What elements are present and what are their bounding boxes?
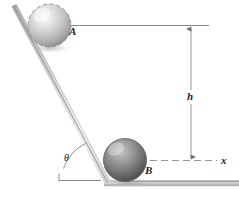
- diagram-canvas: [0, 0, 239, 201]
- sphere-a: [28, 4, 71, 47]
- label-sphere-a: A: [69, 26, 76, 37]
- label-angle-theta: θ: [64, 153, 69, 163]
- label-height-h: h: [187, 91, 193, 102]
- sphere-b: [104, 139, 147, 182]
- label-axis-x: x: [221, 155, 227, 166]
- label-sphere-b: B: [145, 165, 152, 176]
